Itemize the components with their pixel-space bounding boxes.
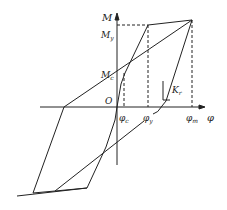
ytick-my: My (100, 30, 114, 42)
xtick-phim: φm (186, 113, 198, 124)
crossing-line (55, 121, 144, 191)
y-axis-label: M (101, 12, 113, 23)
x-axis-label: φ (207, 112, 214, 123)
bottom-skeleton (17, 188, 87, 196)
x-axis-arrow (199, 105, 205, 109)
origin-label: O (105, 96, 113, 106)
xtick-phic: φc (119, 113, 129, 124)
xtick-phiy: φy (143, 113, 153, 125)
left-branch (33, 107, 117, 193)
y-axis-arrow (115, 13, 119, 20)
ytick-mc: Mc (100, 70, 114, 81)
hysteresis-diagram: M My Mc O φc φy φm φ Kr (0, 0, 227, 210)
stiffness-label: Kr (171, 85, 183, 96)
